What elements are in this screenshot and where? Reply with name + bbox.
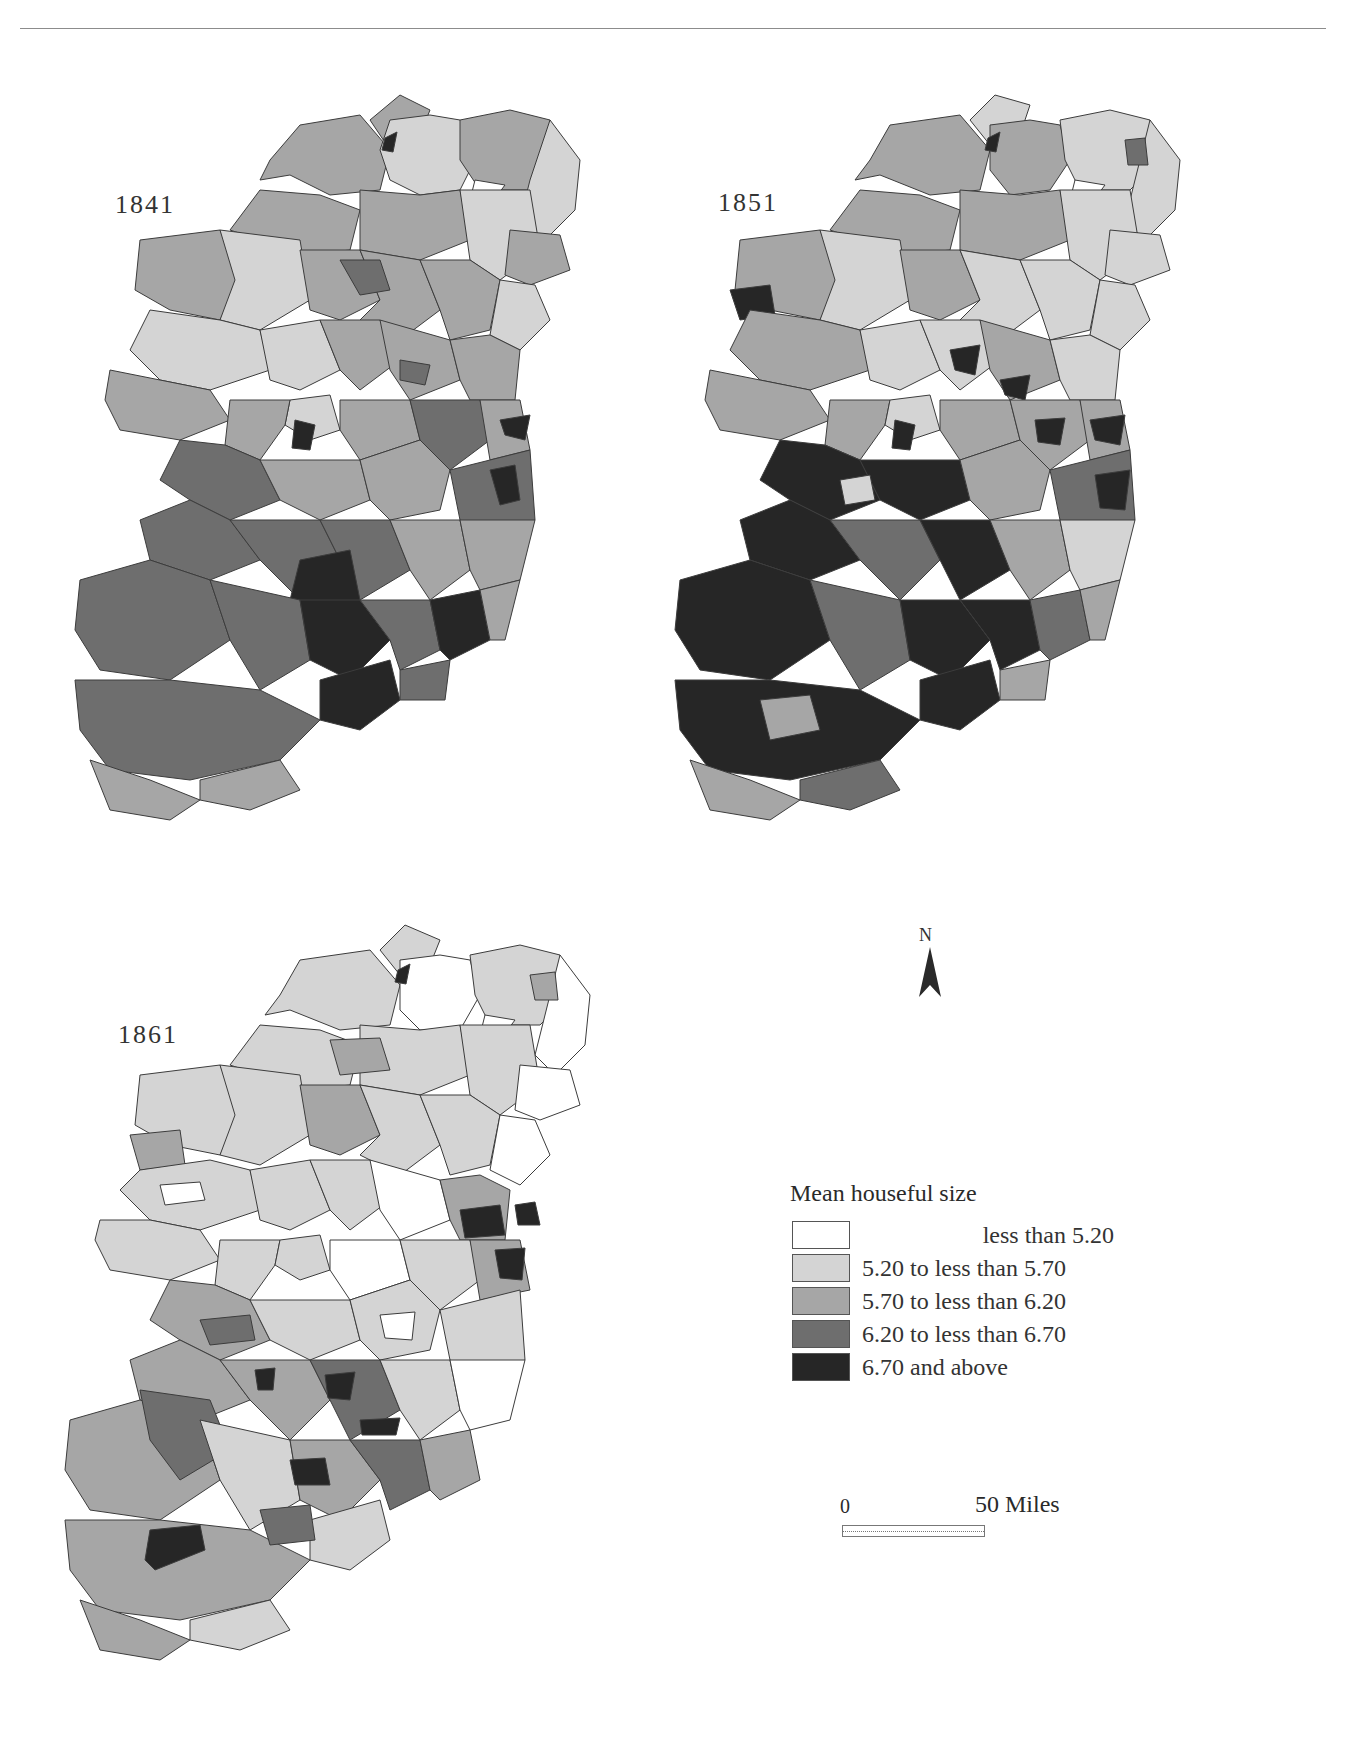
legend-swatch (792, 1287, 850, 1315)
year-label-1851: 1851 (718, 188, 778, 218)
legend-swatch (792, 1221, 850, 1249)
map-1851: 1851 (670, 80, 1290, 860)
legend-label: 6.20 to less than 6.70 (862, 1320, 1112, 1348)
legend-title: Mean houseful size (790, 1180, 1110, 1207)
scale-start-label: 0 (840, 1495, 850, 1518)
scale-end-label: 50 Miles (975, 1491, 1060, 1518)
north-label: N (919, 925, 932, 946)
legend-label: 5.20 to less than 5.70 (862, 1254, 1112, 1282)
legend-swatch (792, 1320, 850, 1348)
legend-item: 5.20 to less than 5.70 (790, 1254, 1110, 1284)
map-1861: 1861 (60, 920, 680, 1700)
legend-item: 6.70 and above (790, 1353, 1110, 1383)
top-rule (20, 28, 1326, 29)
legend-item: less than 5.20 (790, 1221, 1110, 1251)
legend-item: 5.70 to less than 6.20 (790, 1287, 1110, 1317)
legend-label: 5.70 to less than 6.20 (862, 1287, 1112, 1315)
legend-item: 6.20 to less than 6.70 (790, 1320, 1110, 1350)
map-1841: 1841 (60, 80, 680, 860)
legend-label: less than 5.20 (862, 1221, 1114, 1249)
legend: Mean houseful size less than 5.20 5.20 t… (790, 1180, 1110, 1386)
north-arrow: N (905, 925, 955, 1010)
year-label-1841: 1841 (115, 190, 175, 220)
scale-bar-graphic (842, 1525, 985, 1537)
legend-swatch (792, 1254, 850, 1282)
scale-bar: 0 50 Miles (830, 1495, 1090, 1555)
legend-label: 6.70 and above (862, 1353, 1112, 1381)
year-label-1861: 1861 (118, 1020, 178, 1050)
legend-swatch (792, 1353, 850, 1381)
north-arrow-icon (915, 947, 945, 1002)
